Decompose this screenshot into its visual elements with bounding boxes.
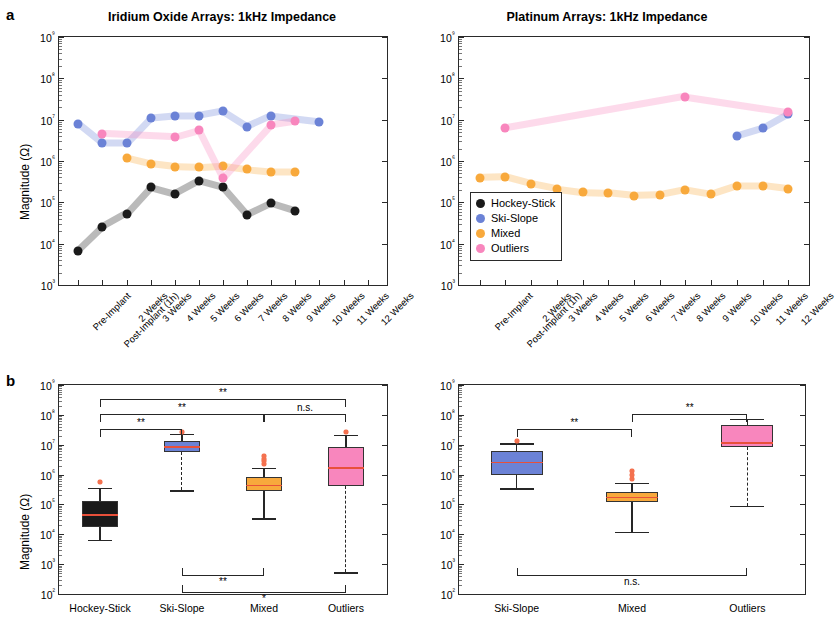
x-tick-mark [711,280,712,285]
data-point [784,185,793,194]
data-point [170,133,179,142]
y-minor-tick [459,576,462,577]
y-minor-tick [59,246,62,247]
y-tick-mark [382,564,387,565]
category-label: Outliers [328,602,364,614]
y-minor-tick [459,80,462,81]
y-minor-tick [59,484,62,485]
legend-item-outliers: Outliers [476,241,555,256]
y-minor-tick [459,170,462,171]
data-point [758,124,767,133]
data-point [475,173,484,182]
data-point [267,199,276,208]
y-tick-mark [804,161,809,162]
y-tick-label: 10⁵ [40,196,55,210]
legend-label: Hockey-Stick [491,198,555,209]
y-tick-mark [459,445,464,446]
y-tick-mark [800,475,805,476]
y-minor-tick [459,509,462,510]
y-minor-tick [59,546,62,547]
x-tick-mark [557,280,558,285]
y-tick-mark [59,120,64,121]
y-minor-tick [459,91,462,92]
y-minor-tick [459,513,462,514]
y-minor-tick [59,427,62,428]
y-minor-tick [459,53,462,54]
whisker-lower [747,447,748,506]
y-minor-tick [59,446,62,447]
y-minor-tick [459,477,462,478]
median-line [246,485,283,487]
y-minor-tick [459,209,462,210]
y-minor-tick [59,481,62,482]
y-minor-tick [59,248,62,249]
y-tick-mark [59,244,64,245]
y-minor-tick [459,406,462,407]
y-minor-tick [59,418,62,419]
y-minor-tick [459,126,462,127]
y-minor-tick [459,265,462,266]
y-tick-label: 10⁵ [440,498,455,512]
data-point [291,206,300,215]
y-tick-mark [459,504,464,505]
y-minor-tick [459,546,462,547]
y-minor-tick [59,88,62,89]
y-minor-tick [59,170,62,171]
x-tick-mark [505,280,506,285]
y-tick-label: 10⁴ [440,528,455,542]
y-minor-tick [459,466,462,467]
y-minor-tick [459,66,462,67]
y-minor-tick [459,571,462,572]
y-minor-tick [59,495,62,496]
y-minor-tick [459,49,462,50]
legend-swatch-icon [476,229,485,238]
y-minor-tick [59,406,62,407]
y-minor-tick [459,256,462,257]
y-minor-tick [59,457,62,458]
y-tick-mark [804,202,809,203]
whisker-cap-lower [88,540,112,541]
plot-area-iro: 10³10⁴10⁵10⁶10⁷10⁸10⁹Pre-ImplantPost-Imp… [58,36,388,286]
y-minor-tick [59,212,62,213]
y-minor-tick [59,536,62,537]
y-minor-tick [59,541,62,542]
y-minor-tick [59,107,62,108]
y-minor-tick [459,260,462,261]
x-tick-mark [319,280,320,285]
y-minor-tick [459,555,462,556]
y-minor-tick [59,273,62,274]
whisker-upper [345,435,346,447]
category-label: Outliers [729,602,765,614]
y-tick-label: 10⁵ [440,196,455,210]
y-minor-tick [59,260,62,261]
y-tick-mark [382,202,387,203]
y-minor-tick [459,479,462,480]
significance-label: n.s. [624,576,640,587]
x-tick-mark [763,280,764,285]
y-tick-mark [800,534,805,535]
y-minor-tick [59,569,62,570]
data-point [219,183,228,192]
data-point [243,210,252,219]
y-minor-tick [59,448,62,449]
y-minor-tick [59,100,62,101]
y-minor-tick [459,95,462,96]
y-minor-tick [459,231,462,232]
y-minor-tick [59,141,62,142]
legend-swatch-icon [476,199,485,208]
y-minor-tick [459,567,462,568]
y-minor-tick [459,82,462,83]
data-point [98,139,107,148]
y-minor-tick [459,132,462,133]
trend-band [685,93,789,116]
y-minor-tick [59,167,62,168]
y-minor-tick [459,454,462,455]
y-tick-mark [459,37,464,38]
outlier-marker [98,480,103,485]
y-minor-tick [459,219,462,220]
data-point [758,181,767,190]
whisker-cap-upper [88,488,112,489]
legend-swatch-icon [476,244,485,253]
y-minor-tick [59,525,62,526]
y-tick-label: 10³ [441,557,455,571]
